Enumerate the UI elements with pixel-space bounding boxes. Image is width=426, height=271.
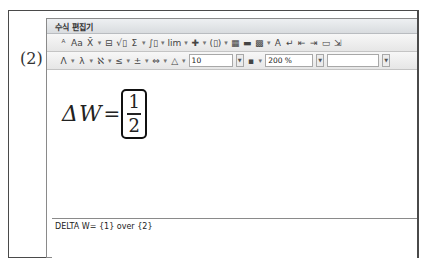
- font-name-input[interactable]: [327, 54, 379, 67]
- greek-lower-icon[interactable]: λ: [78, 55, 87, 67]
- formula-equals: =: [104, 102, 121, 126]
- dropdown-arrow-icon[interactable]: ▾: [164, 57, 168, 65]
- problem-number: (2): [20, 49, 43, 68]
- color-icon[interactable]: A: [273, 37, 282, 49]
- font-size-input[interactable]: 10: [189, 54, 233, 67]
- font-size-dropdown[interactable]: ▼: [236, 54, 244, 67]
- dropdown-arrow-icon[interactable]: ▾: [108, 57, 112, 65]
- fraction-icon[interactable]: ⊟: [104, 37, 113, 49]
- text-color-icon[interactable]: ▪: [247, 55, 256, 67]
- symbol-icon[interactable]: ℵ: [96, 55, 105, 67]
- editor-title: 수식 편집기: [55, 21, 93, 32]
- rendered-formula: ΔW = 1 2: [62, 89, 147, 139]
- dropdown-arrow-icon[interactable]: ▾: [259, 57, 263, 65]
- matrix-icon[interactable]: ▦: [231, 37, 240, 49]
- misc-icon[interactable]: △: [170, 55, 179, 67]
- dropdown-arrow-icon[interactable]: ▾: [98, 39, 102, 47]
- toolbar-row-1: ᴬAaX̄▾⊟√▯Σ▾∫▯▾lim▾✚▾(▯)▾▦▬▩▾A↵⇤⇥▭⇲: [47, 34, 418, 52]
- text-mode-icon[interactable]: Aa: [71, 37, 83, 49]
- integral-icon[interactable]: ∫▯: [148, 37, 158, 49]
- root-icon[interactable]: √▯: [116, 37, 127, 49]
- font-style-icon[interactable]: ᴬ: [59, 37, 68, 49]
- frame-right-border: [417, 10, 419, 258]
- dropdown-arrow-icon[interactable]: ▾: [203, 39, 207, 47]
- align-icon[interactable]: ▬: [243, 37, 252, 49]
- insert-icon[interactable]: ⇲: [333, 37, 342, 49]
- next-icon[interactable]: ⇥: [309, 37, 318, 49]
- dropdown-arrow-icon[interactable]: ▾: [142, 39, 146, 47]
- dropdown-arrow-icon[interactable]: ▾: [145, 57, 149, 65]
- prev-icon[interactable]: ⇤: [297, 37, 306, 49]
- relation-icon[interactable]: ≤: [115, 55, 124, 67]
- dropdown-arrow-icon[interactable]: ▾: [161, 39, 165, 47]
- highlighted-fraction: 1 2: [121, 89, 147, 139]
- enter-icon[interactable]: ↵: [285, 37, 294, 49]
- dropdown-arrow-icon[interactable]: ▾: [267, 39, 271, 47]
- decoration-icon[interactable]: X̄: [86, 37, 95, 49]
- script-text: DELTA W= {1} over {2}: [55, 222, 152, 231]
- limit-icon[interactable]: lim: [168, 37, 182, 49]
- zoom-dropdown[interactable]: ▼: [316, 54, 324, 67]
- operator-icon[interactable]: ±: [133, 55, 142, 67]
- zoom-input[interactable]: 200 %: [265, 54, 313, 67]
- equation-editor-window: 수식 편집기 ᴬAaX̄▾⊟√▯Σ▾∫▯▾lim▾✚▾(▯)▾▦▬▩▾A↵⇤⇥▭…: [46, 18, 418, 258]
- sum-icon[interactable]: Σ: [130, 37, 139, 49]
- bracket-icon[interactable]: (▯): [209, 37, 221, 49]
- fraction-numerator: 1: [129, 92, 140, 112]
- fraction-denominator: 2: [129, 116, 140, 136]
- font-name-dropdown[interactable]: ▼: [382, 54, 390, 67]
- dropdown-arrow-icon[interactable]: ▾: [71, 57, 75, 65]
- script-input[interactable]: DELTA W= {1} over {2}: [52, 218, 418, 258]
- dropdown-arrow-icon[interactable]: ▾: [127, 57, 131, 65]
- greek-upper-icon[interactable]: Λ: [59, 55, 68, 67]
- matrix-cross-icon[interactable]: ✚: [191, 37, 200, 49]
- dropdown-arrow-icon[interactable]: ▾: [90, 57, 94, 65]
- formula-lhs: ΔW: [62, 101, 103, 126]
- grid-icon[interactable]: ▩: [255, 37, 264, 49]
- dropdown-arrow-icon[interactable]: ▾: [184, 39, 188, 47]
- toolbar-row-2: Λ▾λ▾ℵ▾≤▾±▾⇔▾△▾10▼▪▾200 %▼▼: [47, 52, 418, 70]
- dropdown-arrow-icon[interactable]: ▾: [182, 57, 186, 65]
- dropdown-arrow-icon[interactable]: ▾: [224, 39, 228, 47]
- open-icon[interactable]: ▭: [321, 37, 330, 49]
- editor-titlebar[interactable]: 수식 편집기: [47, 19, 418, 34]
- arrow-icon[interactable]: ⇔: [152, 55, 161, 67]
